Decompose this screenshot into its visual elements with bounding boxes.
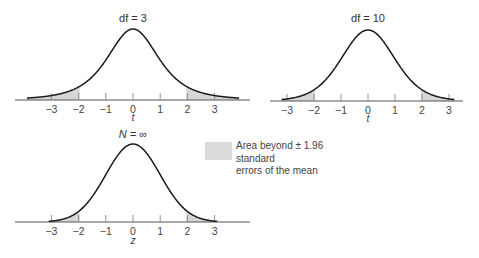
x-tick-label: −2: [308, 104, 320, 116]
density-curve: [27, 29, 239, 98]
x-tick-label: 2: [184, 225, 190, 237]
x-tick-label: −3: [281, 104, 293, 116]
x-tick-label: 2: [419, 104, 425, 116]
x-tick-label: −1: [100, 103, 112, 115]
x-tick-label: 1: [157, 225, 163, 237]
panel-title: df = 3: [119, 12, 147, 24]
x-tick-label: −2: [73, 103, 85, 115]
panel-title: df = 10: [351, 12, 385, 24]
x-tick-label: 1: [392, 104, 398, 116]
x-tick-label: −3: [45, 103, 57, 115]
legend-text: Area beyond ± 1.96 standard errors of th…: [236, 140, 356, 178]
x-tick-label: 3: [212, 103, 218, 115]
x-tick-label: 1: [157, 103, 163, 115]
x-tick-label: −1: [100, 225, 112, 237]
panel-title: N = ∞: [119, 128, 147, 140]
t-distribution-figure: −3−2−10123df = 3t −3−2−10123df = 10t −3−…: [0, 0, 479, 258]
legend-line-2: errors of the mean: [236, 165, 356, 178]
panel-df-10: −3−2−10123df = 10t: [270, 12, 463, 124]
x-tick-label: 3: [212, 225, 218, 237]
legend-line-1: Area beyond ± 1.96 standard: [236, 140, 356, 165]
x-tick-label: −3: [45, 225, 57, 237]
x-tick-label: 2: [184, 103, 190, 115]
x-tick-label: −2: [73, 225, 85, 237]
density-curve: [282, 30, 455, 100]
legend-swatch: [205, 142, 232, 160]
x-axis-label: z: [129, 234, 136, 246]
density-curve: [49, 144, 218, 221]
x-tick-label: −1: [335, 104, 347, 116]
x-tick-label: 3: [446, 104, 452, 116]
panel-df-3: −3−2−10123df = 3t: [15, 12, 250, 123]
